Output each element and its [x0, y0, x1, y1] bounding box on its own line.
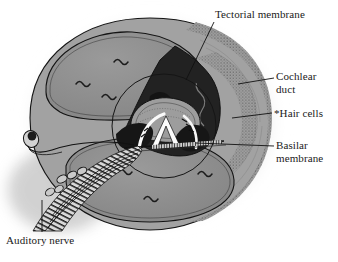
- auditory-nerve-label: Auditory nerve: [6, 234, 74, 247]
- cochlear-duct-label-line2: duct: [276, 83, 295, 95]
- cochlea-diagram: Tectorial membrane Cochlearduct *Hair ce…: [0, 0, 338, 262]
- basilar-membrane-label: Basilarmembrane: [276, 139, 323, 165]
- basilar-membrane-label-line1: Basilar: [276, 139, 308, 151]
- cochlea-illustration: [0, 0, 338, 262]
- tectorial-membrane-label: Tectorial membrane: [215, 8, 305, 21]
- basilar-membrane-label-line2: membrane: [276, 152, 323, 164]
- hair-cells-label: *Hair cells: [274, 107, 323, 120]
- cochlear-duct-label: Cochlearduct: [276, 70, 317, 96]
- cochlear-duct-label-line1: Cochlear: [276, 70, 317, 82]
